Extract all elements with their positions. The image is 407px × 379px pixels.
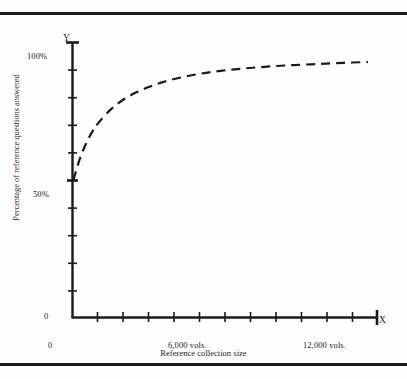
y-axis-title: Percentage of reference questions answer…: [12, 68, 21, 228]
chart-plot-area: [0, 15, 407, 363]
chart-figure: 100% 50% 0 0 6,000 vols. 12,000 vols. Y …: [0, 15, 407, 363]
figure-page: 100% 50% 0 0 6,000 vols. 12,000 vols. Y …: [0, 0, 407, 379]
data-series-line: [74, 62, 369, 180]
y-tick-label-0: 0: [44, 311, 48, 321]
x-axis-letter: X: [379, 315, 386, 325]
y-tick-label-50: 50%: [33, 189, 49, 199]
bottom-rule-divider: [0, 363, 407, 366]
x-axis-title: Reference collection size: [0, 348, 407, 358]
y-axis-letter: Y: [63, 33, 70, 43]
y-tick-label-100: 100%: [27, 51, 47, 61]
